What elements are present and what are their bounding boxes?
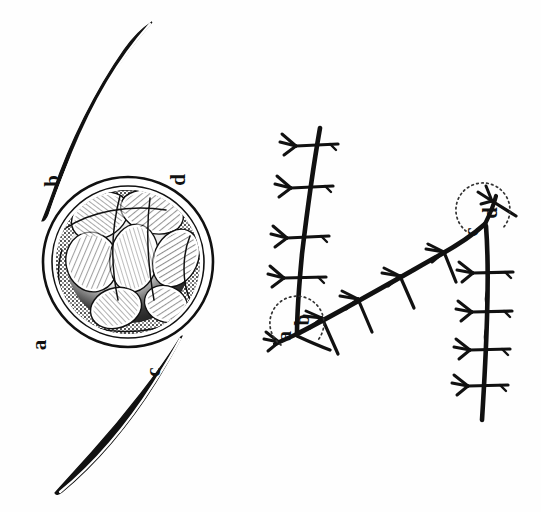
label-c-right: c — [460, 227, 482, 236]
figure-root: a b c d — [0, 0, 541, 512]
label-b-left: b — [40, 175, 64, 187]
label-b-right: b — [291, 314, 313, 325]
label-c-left: c — [141, 367, 165, 376]
label-a-right: a — [273, 331, 295, 341]
label-a-left: a — [27, 339, 51, 350]
illustration-canvas: a b c d — [0, 0, 541, 512]
label-d-left: d — [166, 174, 190, 186]
label-d-right: d — [479, 207, 501, 218]
